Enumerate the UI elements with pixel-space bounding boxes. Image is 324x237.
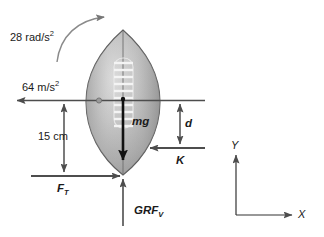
linear-acceleration-value: 64 [22, 81, 34, 93]
weight-force-symbol: mg [132, 115, 149, 127]
linear-acceleration-exponent: 2 [55, 79, 59, 88]
k-force-label: K [176, 155, 184, 167]
k-force-symbol: K [176, 154, 184, 166]
linear-acceleration-unit: m/s [37, 81, 55, 93]
tangential-force-symbol: F [57, 182, 64, 194]
center-of-mass-marker [96, 98, 101, 103]
angular-acceleration-value: 28 [10, 31, 22, 43]
angular-acceleration-unit: rad/s [25, 31, 49, 43]
angular-acceleration-arc [57, 17, 104, 62]
axis-y-label: Y [231, 140, 238, 151]
angular-acceleration-exponent: 2 [50, 29, 54, 38]
ground-reaction-force-symbol: GRF [134, 204, 158, 216]
tangential-force-label: FT [57, 183, 69, 197]
coordinate-axes [236, 155, 292, 215]
moment-arm-symbol: d [185, 117, 192, 129]
tangential-force-subscript: T [64, 188, 69, 197]
angular-acceleration-label: 28 rad/s2 [10, 30, 54, 43]
vertical-distance-text: 15 cm [38, 130, 68, 142]
ground-reaction-force-subscript: V [158, 210, 163, 219]
axis-y-symbol: Y [231, 139, 238, 151]
weight-force-label: mg [132, 116, 149, 128]
linear-acceleration-label: 64 m/s2 [22, 80, 59, 93]
axis-x-label: X [298, 209, 305, 220]
moment-arm-label: d [185, 118, 192, 130]
physics-diagram-figure: 28 rad/s2 64 m/s2 15 cm mg FT GRFV K d Y… [0, 0, 324, 237]
axis-x-symbol: X [298, 208, 305, 220]
ground-reaction-force-label: GRFV [134, 205, 163, 219]
vertical-distance-label: 15 cm [38, 131, 68, 142]
